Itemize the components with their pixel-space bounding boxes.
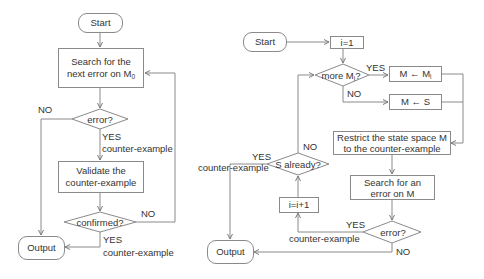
right-error-yes-note: counter-example [289, 233, 360, 244]
left-confirmed-yes-note: counter-example [103, 247, 174, 258]
left-error-yes-label: YES [102, 131, 121, 142]
right-assign-s-box: M ← S [389, 94, 442, 110]
right-increment-box: i=i+1 [279, 197, 319, 213]
left-start-label: Start [90, 17, 110, 29]
left-validate-box: Validate the counter-example [58, 161, 144, 193]
right-restrict-line1: Restrict the state space M [337, 132, 447, 143]
right-search-line1: Search for an [364, 177, 421, 188]
right-s-already-yes-label: YES [252, 151, 271, 162]
right-start-label: Start [255, 36, 275, 48]
right-error-decision-label: error? [380, 227, 405, 238]
right-s-already-yes-note: counter-example [198, 162, 269, 173]
right-init-label: i=1 [341, 37, 354, 49]
left-search-line1: Search for the [71, 56, 131, 68]
left-start-node: Start [78, 13, 123, 33]
right-s-already-no-label: NO [303, 141, 317, 152]
right-more-yes-label: YES [366, 62, 385, 73]
left-error-no-label: NO [38, 104, 52, 115]
left-validate-line1: Validate the [76, 165, 125, 177]
right-error-no-label: NO [396, 246, 410, 257]
left-output-label: Output [27, 242, 56, 254]
right-assign-mi-label: M ← M [399, 68, 430, 79]
left-error-yes-note: counter-example [102, 143, 173, 154]
left-confirmed-decision-label: confirmed? [77, 217, 124, 228]
left-search-subscript: 0 [131, 73, 135, 80]
left-search-line2: next error on M [67, 68, 131, 79]
left-confirmed-yes-label: YES [103, 234, 122, 245]
right-restrict-box: Restrict the state space M to the counte… [333, 131, 451, 155]
right-s-already-decision-label: S already? [275, 159, 320, 170]
right-output-label: Output [216, 246, 245, 258]
right-assign-mi-box: M ← Mi [389, 66, 442, 82]
right-more-no-label: NO [347, 88, 361, 99]
right-error-yes-label: YES [346, 219, 365, 230]
left-validate-line2: counter-example [66, 177, 137, 189]
right-output-node: Output [207, 240, 254, 264]
left-error-decision-label: error? [87, 114, 112, 125]
left-search-error-box: Search for the next error on M0 [58, 48, 144, 88]
right-assign-s-label: M ← S [401, 96, 430, 108]
right-init-box: i=1 [330, 36, 364, 49]
right-restrict-line2: to the counter-example [343, 143, 440, 154]
right-increment-label: i=i+1 [289, 199, 310, 211]
left-output-node: Output [18, 236, 65, 260]
right-search-box: Search for an error on M [350, 175, 435, 200]
right-search-line2: error on M [371, 188, 415, 199]
right-more-decision-label: more Mi? [322, 70, 361, 81]
right-start-node: Start [243, 32, 287, 52]
left-confirmed-no-label: NO [141, 208, 155, 219]
